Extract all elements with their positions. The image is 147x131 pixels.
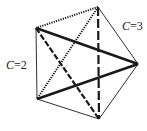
label-c2-var: C	[6, 58, 14, 72]
edge-BD	[36, 28, 37, 99]
edge-AB	[36, 7, 98, 28]
label-c3-var: C	[122, 19, 130, 33]
edge-AE	[98, 7, 99, 119]
edge-AD	[37, 7, 98, 99]
edge-DE	[37, 99, 99, 119]
edge-CD	[37, 64, 138, 99]
graph-diagram: C=2 C=3	[0, 0, 147, 131]
label-c3-eq: =3	[130, 19, 143, 33]
label-c2-eq: =2	[14, 58, 27, 72]
label-c3: C=3	[122, 19, 143, 34]
edge-CE	[99, 64, 138, 119]
edge-BE	[36, 28, 99, 119]
label-c2: C=2	[6, 58, 27, 73]
edge-AC	[98, 7, 138, 64]
